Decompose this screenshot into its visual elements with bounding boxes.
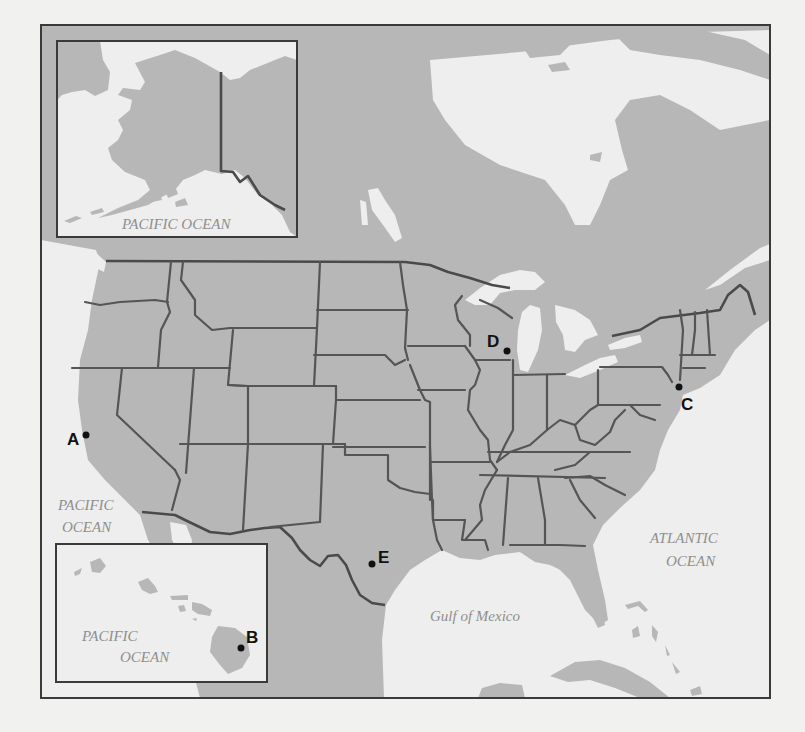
marker-c-dot[interactable]: [676, 384, 683, 391]
pacific-label-line1: PACIFIC: [57, 497, 115, 513]
hawaii-ocean-label: OCEAN: [120, 649, 170, 665]
marker-d-dot[interactable]: [504, 348, 511, 355]
marker-a-dot[interactable]: [83, 432, 90, 439]
marker-b-label: B: [246, 628, 258, 647]
marker-e-label: E: [378, 548, 389, 567]
atlantic-label-line1: ATLANTIC: [649, 530, 719, 546]
marker-a-label: A: [67, 430, 79, 449]
us-map: PACIFIC OCEAN PACIFIC OCEAN PACIFIC OCEA…: [0, 0, 805, 732]
marker-d-label: D: [487, 332, 499, 351]
marker-c-label: C: [681, 395, 693, 414]
alaska-inset: PACIFIC OCEAN: [57, 41, 297, 237]
pacific-label-line2: OCEAN: [62, 519, 112, 535]
hawaii-inset: PACIFIC OCEAN: [56, 544, 267, 682]
hawaii-pacific-label: PACIFIC: [81, 628, 139, 644]
atlantic-label-line2: OCEAN: [666, 553, 716, 569]
marker-b-dot[interactable]: [238, 645, 245, 652]
marker-e-dot[interactable]: [369, 561, 376, 568]
alaska-pacific-ocean-label: PACIFIC OCEAN: [121, 216, 231, 232]
gulf-of-mexico-label: Gulf of Mexico: [430, 608, 520, 624]
